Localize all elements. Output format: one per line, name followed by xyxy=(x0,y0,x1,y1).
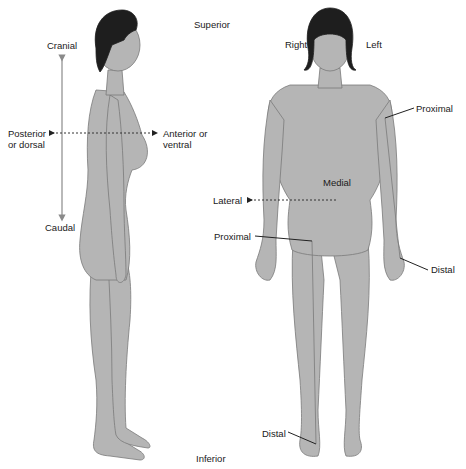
label-distal-leg: Distal xyxy=(262,428,286,439)
label-proximal-leg: Proximal xyxy=(214,231,251,242)
label-left: Left xyxy=(366,39,382,50)
label-right: Right xyxy=(285,39,307,50)
side-view-figure xyxy=(80,10,150,460)
front-view-figure xyxy=(256,8,405,456)
label-distal-arm: Distal xyxy=(431,264,455,275)
label-posterior-line2: or dorsal xyxy=(8,139,45,150)
label-anterior: Anterior or ventral xyxy=(163,128,207,150)
label-lateral: Lateral xyxy=(213,195,242,206)
label-inferior: Inferior xyxy=(196,453,226,464)
label-cranial: Cranial xyxy=(47,40,77,51)
label-anterior-line1: Anterior or xyxy=(163,128,207,139)
label-posterior: Posterior or dorsal xyxy=(8,128,46,150)
label-anterior-line2: ventral xyxy=(163,139,192,150)
label-posterior-line1: Posterior xyxy=(8,128,46,139)
label-proximal-arm: Proximal xyxy=(416,103,453,114)
label-superior: Superior xyxy=(194,19,230,30)
label-medial: Medial xyxy=(323,177,351,188)
label-caudal: Caudal xyxy=(45,222,75,233)
